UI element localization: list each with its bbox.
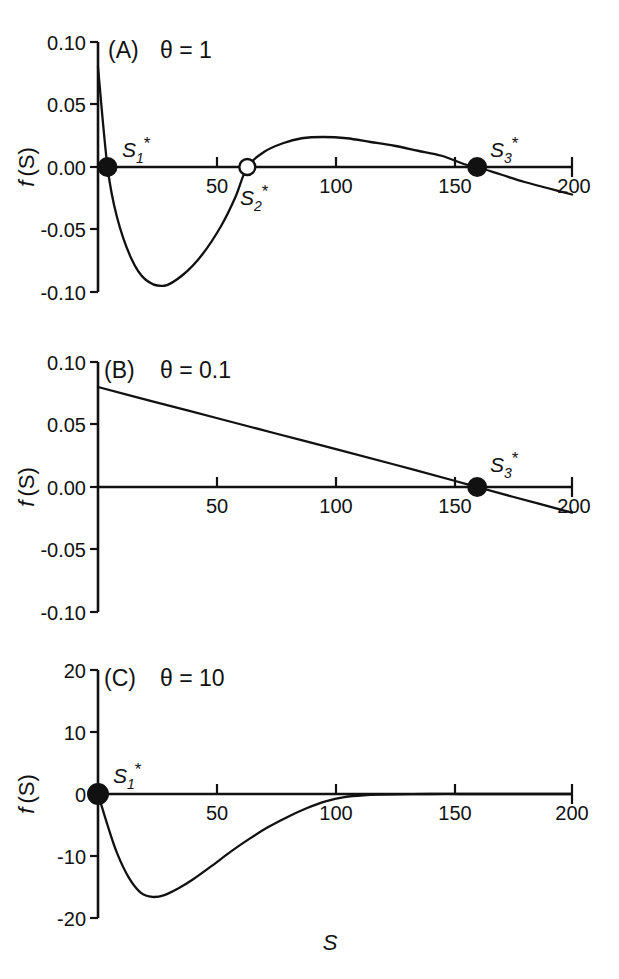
marker-b-s3: [468, 478, 486, 496]
panel-label-b: (B): [104, 357, 135, 383]
y-axis-title-f-a: f: [14, 178, 39, 187]
y-axis-title-s-c: (S): [14, 774, 39, 803]
y-axis-title-c: f(S): [14, 774, 39, 813]
figure-container: 0.10 0.05 0.00 -0.05 -0.10 f(S) 50 100 1…: [0, 0, 619, 979]
y-tick-label-c-1: 10: [64, 722, 86, 744]
marker-label-a-s2: S2*: [240, 182, 269, 214]
y-tick-label-c-3: -10: [57, 846, 86, 868]
y-axis-title-s-a: (S): [14, 147, 39, 176]
y-tick-label-b-2: 0.00: [47, 477, 86, 499]
panel-annotation-a: θ = 1: [160, 37, 212, 63]
svg-text:f(S): f(S): [14, 467, 39, 506]
x-tick-label-a-1: 100: [319, 175, 352, 197]
x-tick-label-c-1: 100: [319, 802, 352, 824]
x-tick-label-b-0: 50: [206, 495, 228, 517]
y-tick-label-a-2: 0.00: [47, 157, 86, 179]
y-tick-label-c-4: -20: [57, 908, 86, 930]
curve-b: [98, 387, 572, 513]
y-axis-title-s-b: (S): [14, 467, 39, 496]
marker-a-s1: [98, 158, 116, 176]
y-tick-label-a-1: 0.05: [47, 94, 86, 116]
y-tick-label-b-0: 0.10: [47, 352, 86, 374]
x-tick-label-b-3: 200: [557, 495, 590, 517]
marker-label-a-s3: S3*: [490, 134, 519, 166]
y-tick-label-a-4: -0.10: [40, 282, 86, 304]
panel-c: 20 10 0 -10 -20 f(S) 50 100 150 200 S1* …: [0, 645, 619, 979]
y-axis-title-f-c: f: [14, 805, 39, 814]
y-axis-title-a: f(S): [14, 147, 39, 186]
y-tick-label-b-1: 0.05: [47, 414, 86, 436]
marker-label-b-s3: S3*: [490, 449, 519, 481]
panel-b: 0.10 0.05 0.00 -0.05 -0.10 f(S) 50 100 1…: [0, 320, 619, 650]
marker-a-s3: [468, 158, 486, 176]
panel-label-c: (C): [104, 665, 136, 691]
panel-annotation-c: θ = 10: [160, 665, 225, 691]
x-axis-title: S: [323, 930, 338, 955]
y-tick-label-a-0: 0.10: [47, 32, 86, 54]
panel-a-plot: 0.10 0.05 0.00 -0.05 -0.10 f(S) 50 100 1…: [0, 0, 619, 330]
x-tick-label-c-0: 50: [206, 802, 228, 824]
x-tick-label-c-2: 150: [438, 802, 471, 824]
marker-label-c-s1: S1*: [113, 760, 142, 792]
panel-label-a: (A): [108, 37, 139, 63]
y-tick-label-b-4: -0.10: [40, 602, 86, 624]
marker-c-s1: [88, 784, 108, 804]
marker-a-s2: [239, 159, 255, 175]
x-tick-label-a-3: 200: [557, 175, 590, 197]
marker-label-a-s1: S1*: [122, 134, 151, 166]
y-tick-label-c-0: 20: [64, 660, 86, 682]
panel-b-plot: 0.10 0.05 0.00 -0.05 -0.10 f(S) 50 100 1…: [0, 320, 619, 650]
x-tick-label-a-0: 50: [206, 175, 228, 197]
y-axis-title-f-b: f: [14, 498, 39, 507]
panel-annotation-b: θ = 0.1: [160, 357, 231, 383]
svg-text:f(S): f(S): [14, 147, 39, 186]
x-tick-label-a-2: 150: [438, 175, 471, 197]
x-tick-label-c-3: 200: [555, 802, 588, 824]
y-tick-label-a-3: -0.05: [40, 219, 86, 241]
x-tick-label-b-1: 100: [319, 495, 352, 517]
y-tick-label-b-3: -0.05: [40, 539, 86, 561]
svg-text:f(S): f(S): [14, 774, 39, 813]
y-tick-label-c-2: 0: [75, 784, 86, 806]
panel-a: 0.10 0.05 0.00 -0.05 -0.10 f(S) 50 100 1…: [0, 0, 619, 330]
y-axis-title-b: f(S): [14, 467, 39, 506]
x-tick-label-b-2: 150: [438, 495, 471, 517]
panel-c-plot: 20 10 0 -10 -20 f(S) 50 100 150 200 S1* …: [0, 645, 619, 979]
